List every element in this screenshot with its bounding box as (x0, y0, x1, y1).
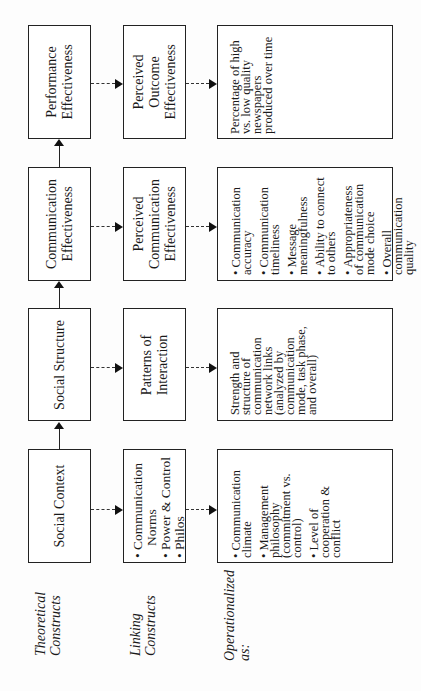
box-text-line: Patterns of (139, 334, 155, 395)
linking-box-social-context: • Communication Norms • Power & Control … (123, 449, 186, 563)
list-item: Management philosophy (commitment vs. co… (259, 458, 303, 558)
list-item: Overall communication quality (382, 175, 415, 275)
arrow-right-icon (115, 505, 123, 515)
box-text-line: Perceived (131, 179, 147, 269)
operational-box-social-context: Communication climate Management philoso… (217, 449, 393, 563)
linking-box-perceived-outcome: Perceived Outcome Effectiveness (123, 25, 186, 139)
solid-connector (59, 145, 60, 167)
linking-box-perceived-communication: Perceived Communication Effectiveness (123, 167, 186, 281)
box-text-line: Performance (44, 44, 60, 119)
arrow-up-icon (54, 139, 64, 146)
arrow-right-icon (209, 222, 217, 232)
operational-text: Percentage of high vs. low quality newsp… (230, 30, 274, 134)
box-text-line: Interaction (155, 334, 171, 395)
operational-box-performance: Percentage of high vs. low quality newsp… (217, 25, 393, 139)
list-item: Level of cooperation & conflict (309, 458, 342, 558)
box-text-line: Outcome (147, 44, 163, 119)
box-text-line: Perceived (131, 44, 147, 119)
dashed-connector (186, 367, 209, 368)
row-label-operationalized: Operationalized as: (222, 570, 252, 661)
list-item: Communication accuracy (231, 175, 253, 275)
arrow-right-icon (209, 79, 217, 89)
row-label-linking: Linking Constructs (128, 595, 158, 656)
operational-text: Strength and structure of communication … (230, 313, 318, 415)
arrow-right-icon (209, 363, 217, 373)
box-text-line: Effectiveness (163, 179, 179, 269)
list-item: Norms (145, 457, 159, 558)
list-item: Appropriateness of communication mode ch… (343, 175, 376, 275)
arrow-right-icon (115, 363, 123, 373)
dashed-connector (186, 509, 209, 510)
list-item: Ability to connect to others (315, 175, 337, 275)
box-text-line: Social Structure (52, 320, 68, 410)
arrow-right-icon (115, 79, 123, 89)
box-text-line: Effectiveness (60, 179, 76, 269)
arrow-right-icon (209, 505, 217, 515)
arrow-up-icon (54, 281, 64, 288)
dashed-connector (186, 226, 209, 227)
box-text-line: Effectiveness (60, 44, 76, 119)
row-label-theoretical: Theoretical Constructs (33, 592, 63, 656)
theoretical-box-social-context: Social Context (28, 449, 91, 563)
operational-box-social-structure: Strength and structure of communication … (217, 308, 393, 421)
arrow-up-icon (54, 422, 64, 429)
dashed-connector (91, 83, 115, 84)
list-item: • Philos (173, 457, 187, 558)
list-item: Communication climate (231, 458, 253, 558)
list-item: • Power & Control (159, 457, 173, 558)
linking-box-patterns-of-interaction: Patterns of Interaction (123, 308, 186, 421)
solid-connector (59, 287, 60, 308)
operational-box-communication: Communication accuracy Communication tim… (217, 167, 393, 281)
dashed-connector (186, 83, 209, 84)
box-text-line: Social Context (52, 465, 68, 548)
list-item: • Communication (131, 457, 145, 558)
linking-list: • Communication Norms • Power & Control … (131, 457, 187, 558)
arrow-right-icon (115, 222, 123, 232)
dashed-connector (91, 367, 115, 368)
theoretical-box-performance-effectiveness: Performance Effectiveness (28, 25, 91, 139)
dashed-connector (91, 509, 115, 510)
box-text-line: Communication (44, 179, 60, 269)
box-text-line: Communication (147, 179, 163, 269)
box-text-line: Effectiveness (163, 44, 179, 119)
solid-connector (59, 428, 60, 449)
dashed-connector (91, 226, 115, 227)
operational-list: Communication climate Management philoso… (231, 458, 348, 558)
operational-list: Communication accuracy Communication tim… (231, 175, 421, 275)
theoretical-box-communication-effectiveness: Communication Effectiveness (28, 167, 91, 281)
list-item: Message meaningfulness (287, 175, 309, 275)
theoretical-box-social-structure: Social Structure (28, 308, 91, 421)
list-item: Communication timeliness (259, 175, 281, 275)
